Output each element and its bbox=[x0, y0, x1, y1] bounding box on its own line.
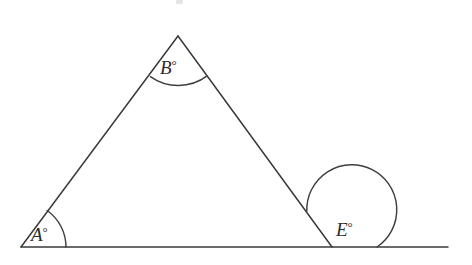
triangle-exterior-angle-diagram: A° B° E° bbox=[0, 0, 472, 265]
angle-arc-a bbox=[47, 211, 66, 248]
angle-label-a: A° bbox=[29, 224, 48, 245]
triangle-left-leg bbox=[21, 36, 178, 247]
angle-arc-b bbox=[150, 76, 206, 85]
angle-label-b-letter: B bbox=[160, 57, 172, 78]
angle-label-b: B° bbox=[160, 57, 177, 78]
angle-arc-e bbox=[307, 165, 397, 247]
triangle-right-leg bbox=[178, 36, 332, 247]
degree-symbol-b: ° bbox=[172, 57, 177, 72]
degree-symbol-e: ° bbox=[348, 219, 353, 234]
angle-label-e-letter: E bbox=[335, 219, 348, 240]
figure-root: A° B° E° bbox=[0, 0, 472, 265]
angle-label-a-letter: A bbox=[29, 224, 43, 245]
degree-symbol-a: ° bbox=[43, 224, 48, 239]
angle-label-e: E° bbox=[335, 219, 353, 240]
